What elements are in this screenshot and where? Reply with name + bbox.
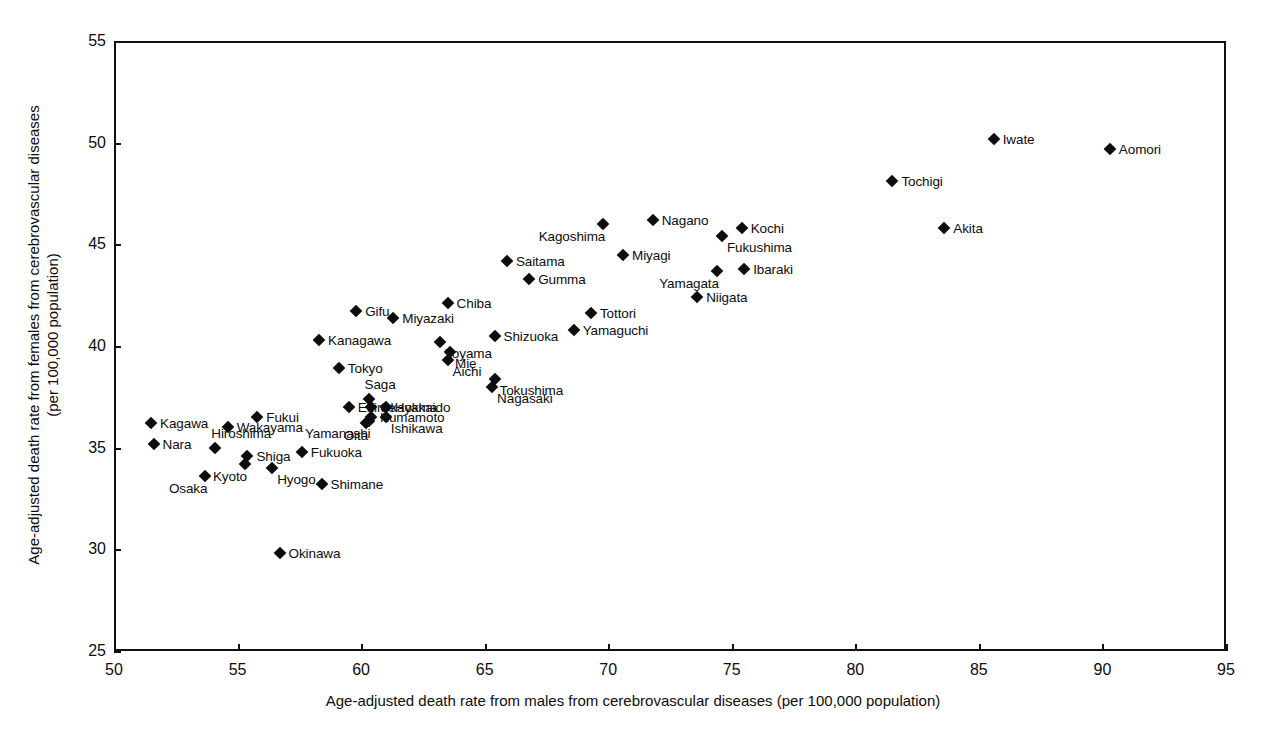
y-tick bbox=[114, 448, 121, 450]
x-tick-label: 80 bbox=[825, 661, 885, 679]
y-tick-label: 50 bbox=[66, 134, 106, 152]
x-tick bbox=[485, 644, 487, 651]
y-tick-label: 35 bbox=[66, 439, 106, 457]
x-tick bbox=[608, 644, 610, 651]
x-tick-label: 95 bbox=[1196, 661, 1256, 679]
x-tick bbox=[114, 644, 116, 651]
y-tick-label: 40 bbox=[66, 337, 106, 355]
x-tick-label: 65 bbox=[455, 661, 515, 679]
x-tick bbox=[855, 644, 857, 651]
y-axis-title-line2: (per 100,000 population) bbox=[43, 30, 62, 640]
y-tick-label: 55 bbox=[66, 32, 106, 50]
x-axis-title: Age-adjusted death rate from males from … bbox=[0, 692, 1266, 709]
y-tick-label: 25 bbox=[66, 642, 106, 660]
x-tick-label: 60 bbox=[331, 661, 391, 679]
y-tick-label: 45 bbox=[66, 235, 106, 253]
y-axis-title: Age-adjusted death rate from females fro… bbox=[24, 30, 62, 640]
x-tick-label: 55 bbox=[208, 661, 268, 679]
x-tick-label: 70 bbox=[578, 661, 638, 679]
x-tick bbox=[732, 644, 734, 651]
x-tick bbox=[1102, 644, 1104, 651]
x-tick-label: 85 bbox=[949, 661, 1009, 679]
y-axis-title-line1: Age-adjusted death rate from females fro… bbox=[24, 30, 43, 640]
y-tick bbox=[114, 346, 121, 348]
x-tick bbox=[361, 644, 363, 651]
plot-frame bbox=[114, 41, 1226, 651]
y-tick bbox=[114, 549, 121, 551]
x-tick-label: 75 bbox=[702, 661, 762, 679]
y-tick bbox=[114, 244, 121, 246]
x-tick bbox=[979, 644, 981, 651]
scatter-chart-figure: 50556065707580859095 25303540455055 Aomo… bbox=[0, 0, 1266, 747]
y-tick-label: 30 bbox=[66, 540, 106, 558]
y-tick bbox=[114, 41, 121, 43]
x-tick bbox=[1226, 644, 1228, 651]
y-tick bbox=[114, 143, 121, 145]
y-tick bbox=[114, 651, 121, 653]
x-tick-label: 90 bbox=[1072, 661, 1132, 679]
x-tick bbox=[238, 644, 240, 651]
x-tick-label: 50 bbox=[84, 661, 144, 679]
